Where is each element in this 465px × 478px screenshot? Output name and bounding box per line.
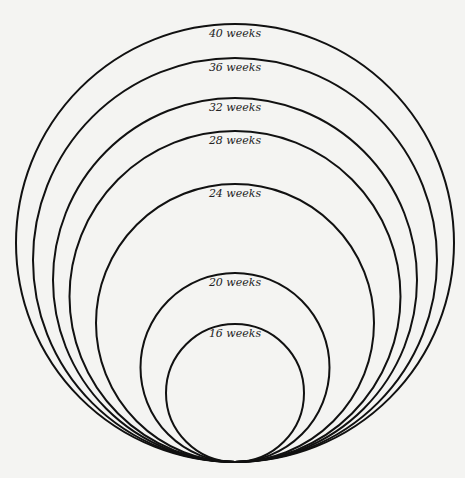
label-40-weeks: 40 weeks [208, 27, 262, 40]
circles-group [16, 24, 454, 462]
label-20-weeks: 20 weeks [208, 276, 262, 289]
label-32-weeks: 32 weeks [209, 101, 262, 114]
nested-circles-diagram: 40 weeks36 weeks32 weeks28 weeks24 weeks… [0, 0, 465, 478]
circle-20-weeks [141, 273, 330, 462]
circle-40-weeks [16, 24, 454, 462]
label-24-weeks: 24 weeks [208, 187, 262, 200]
label-28-weeks: 28 weeks [208, 134, 262, 147]
circle-16-weeks [166, 324, 304, 462]
circle-36-weeks [33, 58, 437, 462]
circle-28-weeks [70, 131, 401, 462]
label-16-weeks: 16 weeks [209, 327, 262, 340]
label-36-weeks: 36 weeks [209, 61, 262, 74]
